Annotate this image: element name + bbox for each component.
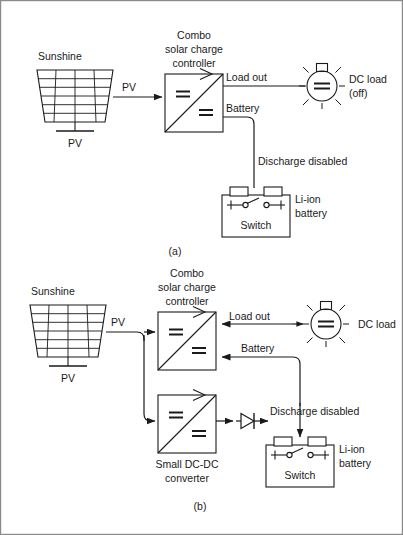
discharge-label-a: Discharge disabled xyxy=(258,155,347,167)
pv-panel-label-a: PV xyxy=(45,137,105,149)
sunshine-label-b: Sunshine xyxy=(31,285,75,297)
caption-b: (b) xyxy=(180,500,220,512)
load-out-label-b: Load out xyxy=(229,310,270,322)
battery-label-a: Battery xyxy=(226,102,259,114)
pv-wire-b-lower xyxy=(144,335,155,421)
pv-wire-label-a: PV xyxy=(122,81,136,93)
lamp-b xyxy=(303,302,349,348)
controller-label-a-line2: solar charge xyxy=(146,43,242,55)
figure-root: Sunshine PV PV Combo solar charge contro… xyxy=(0,0,403,535)
dc-load-label-b: DC load xyxy=(358,318,396,330)
pv-panel-b xyxy=(30,305,106,366)
converter-label-b-line1: Small DC-DC xyxy=(132,458,242,470)
dc-load-state-label-a: (off) xyxy=(349,87,367,99)
li-ion-label-b: Li-ion xyxy=(339,443,365,455)
switch-label-a: Switch xyxy=(222,219,290,231)
pv-panel-label-b: PV xyxy=(38,372,98,384)
pv-panel-a xyxy=(37,70,113,131)
discharge-label-b: Discharge disabled xyxy=(270,405,359,417)
load-out-label-a: Load out xyxy=(226,71,267,83)
controller-label-b-line3: controller xyxy=(139,295,235,307)
pv-wire-b-trunk xyxy=(106,332,144,341)
controller-label-b-line1: Combo xyxy=(139,267,235,279)
li-ion-label-a: Li-ion xyxy=(295,193,321,205)
battery-wire-b-drop xyxy=(293,357,300,406)
battery-word-label-a: battery xyxy=(295,207,327,219)
dc-load-label-a: DC load xyxy=(349,73,387,85)
diode-b xyxy=(236,413,268,429)
battery-wire-a xyxy=(223,117,254,188)
controller-label-b-line2: solar charge xyxy=(139,281,235,293)
sunshine-label-a: Sunshine xyxy=(38,50,82,62)
caption-a: (a) xyxy=(155,245,195,257)
pv-wire-label-b: PV xyxy=(111,316,125,328)
converter-label-b-line2: converter xyxy=(132,472,242,484)
battery-word-label-b: battery xyxy=(339,457,371,469)
controller-label-a-line3: controller xyxy=(146,57,242,69)
converter-box-b xyxy=(158,390,216,454)
switch-label-b: Switch xyxy=(266,469,334,481)
controller-label-a-line1: Combo xyxy=(146,29,242,41)
controller-box-a xyxy=(165,69,223,133)
battery-label-b: Battery xyxy=(241,342,274,354)
controller-box-b xyxy=(158,307,216,371)
